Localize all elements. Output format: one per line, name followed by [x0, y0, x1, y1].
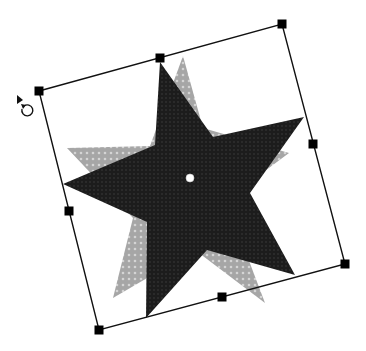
- rotate-cursor-icon: [17, 95, 33, 116]
- handle-bottom-right[interactable]: [341, 260, 350, 269]
- handle-top-right[interactable]: [278, 20, 287, 29]
- handle-right-middle[interactable]: [309, 140, 318, 149]
- handle-top-left[interactable]: [35, 87, 44, 96]
- canvas-svg: [0, 0, 366, 351]
- selected-star[interactable]: [63, 62, 304, 318]
- rotation-center-point[interactable]: [186, 174, 194, 182]
- handle-bottom-left[interactable]: [95, 326, 104, 335]
- handle-top-middle[interactable]: [156, 54, 165, 63]
- handle-left-middle[interactable]: [65, 207, 74, 216]
- handle-bottom-middle[interactable]: [218, 293, 227, 302]
- drawing-canvas[interactable]: Star shadow (rotation preview) Selected …: [0, 0, 366, 351]
